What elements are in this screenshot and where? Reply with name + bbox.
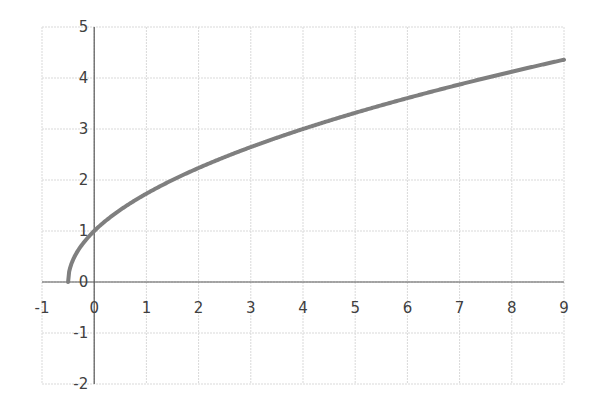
x-tick-label: 1 [142,299,152,317]
data-line [68,60,564,282]
y-tick-label: 4 [79,69,89,87]
y-tick-label: 0 [79,273,89,291]
y-tick-labels: 543210-1-2 [73,18,88,393]
x-tick-label: 9 [559,299,569,317]
x-tick-label: 7 [455,299,465,317]
x-tick-label: 3 [246,299,256,317]
x-tick-label: 5 [350,299,360,317]
x-tick-label: 8 [507,299,517,317]
grid-lines [42,27,564,384]
y-tick-label: 5 [79,18,89,36]
x-tick-label: 4 [298,299,308,317]
y-tick-label: 2 [79,171,89,189]
x-tick-label: -1 [35,299,50,317]
x-tick-label: 0 [89,299,99,317]
y-tick-label: -1 [73,324,88,342]
x-tick-label: 2 [194,299,204,317]
chart: 543210-1-2 -10123456789 [0,0,591,415]
x-tick-labels: -10123456789 [35,299,569,317]
x-tick-label: 6 [403,299,413,317]
y-tick-label: -2 [73,375,88,393]
y-tick-label: 3 [79,120,89,138]
